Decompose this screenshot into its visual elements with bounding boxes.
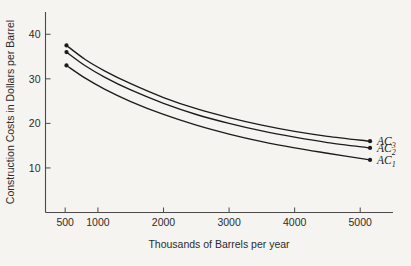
series-label-subscript: 1 [392, 160, 396, 169]
series-label-group: AC3AC2AC1 [376, 135, 396, 168]
y-tick-label: 40 [29, 28, 41, 40]
endpoint-marker-group [64, 43, 372, 162]
curve-AC_1 [66, 65, 370, 159]
y-axis-ticks: 10203040 [29, 28, 51, 174]
x-tick-label: 2000 [152, 216, 176, 228]
endpoint-dot [64, 50, 68, 54]
x-tick-label: 3000 [217, 216, 241, 228]
x-tick-label: 5000 [349, 216, 373, 228]
chart-plot-area: 10203040 50010002000300040005000 AC3AC2A… [0, 0, 411, 266]
endpoint-dot [368, 158, 372, 162]
y-axis-title: Construction Costs in Dollars per Barrel [4, 20, 16, 204]
endpoint-dot [64, 63, 68, 67]
y-tick-label: 20 [29, 117, 41, 129]
curve-group [66, 45, 370, 160]
series-label-subscript: 2 [392, 148, 396, 157]
x-tick-label: 4000 [283, 216, 307, 228]
x-tick-label: 500 [56, 216, 74, 228]
chart-figure: 10203040 50010002000300040005000 AC3AC2A… [0, 0, 411, 266]
endpoint-dot [64, 43, 68, 47]
curve-AC_2 [66, 52, 370, 148]
endpoint-dot [368, 146, 372, 150]
y-tick-label: 10 [29, 162, 41, 174]
x-tick-label: 1000 [86, 216, 110, 228]
x-axis-title: Thousands of Barrels per year [148, 238, 290, 250]
x-axis-ticks: 50010002000300040005000 [56, 208, 372, 228]
endpoint-dot [368, 139, 372, 143]
y-tick-label: 30 [29, 73, 41, 85]
